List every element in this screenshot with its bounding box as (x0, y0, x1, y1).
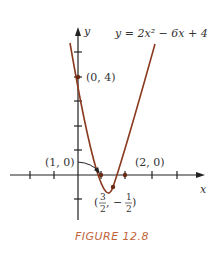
root2-point (123, 173, 127, 177)
svg-text:2: 2 (126, 204, 132, 214)
figure-caption: FIGURE 12.8 (0, 230, 224, 243)
y-intercept-label: (0, 4) (86, 71, 116, 84)
parabola-curve (70, 43, 155, 193)
root2-label: (2, 0) (135, 156, 165, 169)
y-axis-label: y (83, 25, 91, 38)
equation-label: y = 2x² − 6x + 4 (114, 27, 208, 40)
svg-text:(: ( (94, 196, 98, 209)
x-axis-arrow-icon (196, 172, 205, 178)
root1-label: (1, 0) (45, 156, 75, 169)
y-axis-arrow-icon (75, 27, 81, 36)
svg-text:2: 2 (100, 204, 106, 214)
vertex-point (111, 185, 115, 189)
x-axis-label: x (200, 183, 207, 196)
svg-text:, −: , − (106, 196, 122, 209)
y-intercept-point (76, 75, 80, 79)
parabola-graph: y x y = 2x² − 6x + 4 (0, 4) (1, 0) (2, 0… (0, 0, 224, 256)
vertex-label: ( 3 2 , − 1 2 ) (94, 192, 136, 214)
svg-text:1: 1 (126, 192, 132, 202)
svg-text:): ) (132, 196, 136, 209)
